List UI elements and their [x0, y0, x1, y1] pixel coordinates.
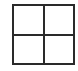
grid-2x2-icon [0, 0, 78, 71]
